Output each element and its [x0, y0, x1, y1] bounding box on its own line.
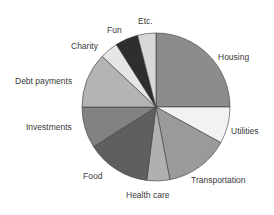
label-debt-payments: Debt payments	[15, 77, 72, 86]
label-housing: Housing	[218, 53, 249, 62]
label-utilities: Utilities	[231, 127, 258, 136]
pie-slice-housing	[156, 33, 230, 107]
label-etc: Etc.	[138, 17, 153, 26]
label-charity: Charity	[71, 42, 98, 51]
label-food: Food	[83, 172, 102, 181]
label-health-care: Health care	[126, 191, 169, 200]
label-fun: Fun	[107, 26, 122, 35]
label-transportation: Transportation	[191, 176, 246, 185]
pie-slices	[82, 33, 230, 181]
label-investments: Investments	[26, 123, 72, 132]
